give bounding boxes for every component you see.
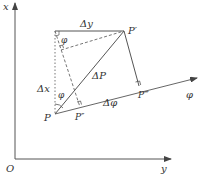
dashed-perpendicular [61, 31, 124, 50]
delta-phi-label: Δφ [102, 97, 117, 108]
horizontal-axis-label: y [160, 163, 167, 174]
delta-p-label: ΔP [91, 70, 106, 81]
phi-axis [55, 78, 197, 114]
vertical-axis-label: x [3, 1, 9, 12]
p-triple-prime-label: P‴ [137, 90, 149, 100]
p-prime-label: P′ [127, 25, 138, 36]
delta-y-label: Δy [79, 18, 93, 29]
p-double-prime-label: P″ [74, 112, 85, 122]
p-prime-to-p-triple [124, 31, 139, 86]
origin-label: O [6, 163, 14, 174]
coordinate-diagram: x y O Δy Δx ΔP Δφ φ φ φ P P′ P″ P‴ [0, 0, 203, 177]
delta-x-label: Δx [36, 83, 50, 94]
phi-angle-top-label: φ [61, 35, 68, 45]
phi-angle-bottom-label: φ [58, 90, 65, 100]
phi-axis-label: φ [186, 89, 193, 100]
p-label: P [43, 112, 51, 123]
